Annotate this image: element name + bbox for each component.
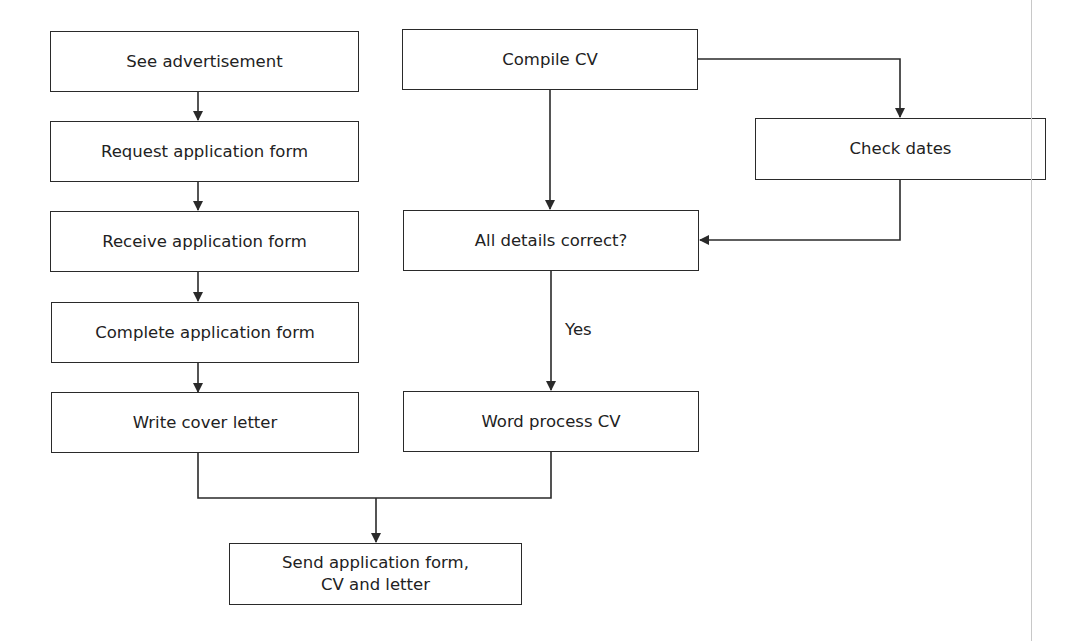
node-write-cover-letter: Write cover letter [51, 392, 359, 453]
node-label: Word process CV [481, 411, 620, 433]
node-see-advertisement: See advertisement [50, 31, 359, 92]
node-complete-application-form: Complete application form [51, 302, 359, 363]
node-request-application-form: Request application form [50, 121, 359, 182]
node-label: See advertisement [126, 51, 282, 73]
node-label: Check dates [850, 138, 952, 160]
node-label: Complete application form [95, 322, 315, 344]
edge-label-yes: Yes [565, 320, 592, 339]
node-compile-cv: Compile CV [402, 29, 698, 90]
node-all-details-correct: All details correct? [403, 210, 699, 271]
node-label: All details correct? [475, 230, 627, 252]
node-label: Compile CV [502, 49, 598, 71]
node-label: Write cover letter [133, 412, 278, 434]
page-edge-guide-line [1031, 0, 1032, 641]
node-label: Receive application form [102, 231, 307, 253]
node-word-process-cv: Word process CV [403, 391, 699, 452]
flowchart-canvas: See advertisement Request application fo… [0, 0, 1080, 641]
node-send-application: Send application form, CV and letter [229, 543, 522, 605]
node-check-dates: Check dates [755, 118, 1046, 180]
node-receive-application-form: Receive application form [50, 211, 359, 272]
node-label: Request application form [101, 141, 308, 163]
node-label: Send application form, CV and letter [282, 552, 469, 596]
